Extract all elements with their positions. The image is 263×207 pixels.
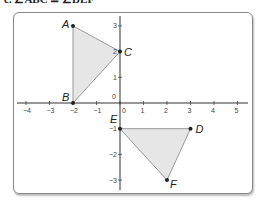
label-c: C: [124, 46, 132, 58]
point-f: [165, 178, 169, 182]
x-tick-label: −4: [23, 107, 31, 114]
y-tick-label: −3: [109, 177, 117, 184]
point-d: [189, 127, 193, 131]
point-c: [118, 50, 122, 54]
label-a: A: [61, 18, 69, 30]
point-a: [71, 24, 75, 28]
x-tick-label: 4: [211, 107, 215, 114]
x-tick-label: 2: [164, 107, 168, 114]
x-tick-label: 5: [235, 107, 239, 114]
x-tick-label: −3: [47, 107, 55, 114]
label-e: E: [110, 113, 118, 125]
x-tick-label: 0: [122, 107, 126, 114]
y-tick-label: 2: [113, 48, 117, 55]
y-tick-label: −2: [109, 151, 117, 158]
y-tick-label: 1: [113, 74, 117, 81]
x-tick-label: −1: [94, 107, 102, 114]
x-tick-label: −2: [70, 107, 78, 114]
axes: −4−3−2−10123453210−1−2−3: [17, 16, 248, 190]
label-b: B: [62, 91, 69, 103]
triangle-abc: [73, 26, 120, 103]
label-d: D: [196, 123, 204, 135]
x-tick-label: 1: [141, 107, 145, 114]
y-tick-label: −1: [109, 125, 117, 132]
y-tick-label: 3: [113, 22, 117, 29]
coordinate-plane: −4−3−2−10123453210−1−2−3 ABCDEF: [0, 0, 263, 207]
x-tick-label: 3: [188, 107, 192, 114]
y-tick-label: 0: [112, 93, 116, 100]
point-e: [118, 127, 122, 131]
triangle-def: [120, 129, 191, 180]
point-b: [71, 101, 75, 105]
label-f: F: [170, 178, 178, 190]
